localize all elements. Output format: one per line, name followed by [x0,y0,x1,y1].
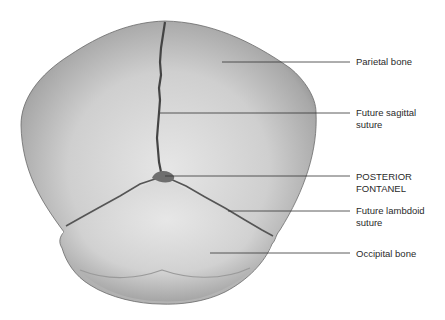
label-occipital-bone: Occipital bone [356,248,416,260]
label-future-lambdoid-suture: Future lambdoid suture [356,205,425,229]
skull-illustration [0,0,445,320]
label-future-sagittal-suture: Future sagittal suture [356,107,416,131]
label-parietal-bone: Parietal bone [356,56,412,68]
skull-diagram: Parietal bone Future sagittal suture POS… [0,0,445,320]
label-posterior-fontanel: POSTERIOR FONTANEL [356,171,412,195]
